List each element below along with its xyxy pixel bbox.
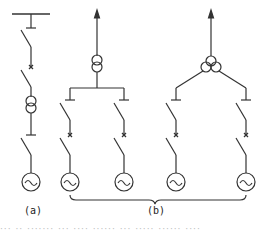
- generator-icon: [22, 173, 40, 191]
- generator-icon: [61, 173, 79, 191]
- three-winding-transformer-icon: [201, 56, 221, 72]
- switch-blade: [21, 30, 31, 47]
- panel-a: [12, 14, 50, 191]
- switch-blade: [21, 138, 31, 155]
- group-brace: [70, 195, 246, 204]
- panel-a-label: (a): [24, 205, 42, 216]
- transformer-icon: [92, 55, 102, 72]
- diagram-canvas: [0, 0, 264, 234]
- output-arrow-icon: [209, 10, 214, 18]
- switch-blade: [21, 70, 31, 87]
- output-arrow-icon: [95, 10, 100, 18]
- transformer-icon: [26, 96, 36, 113]
- panel-b-left: [60, 10, 133, 191]
- generator-icon: [115, 173, 133, 191]
- caption-fragment: ··· ·· ······· ··· ···· ······ ··· ·····…: [0, 224, 264, 234]
- panel-b-right: [166, 10, 255, 191]
- generator-icon: [167, 173, 185, 191]
- generator-icon: [237, 173, 255, 191]
- panel-b-label: (b): [147, 205, 165, 216]
